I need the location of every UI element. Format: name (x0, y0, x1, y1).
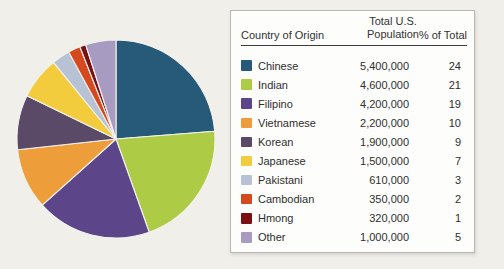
population-value: 4,200,000 (343, 98, 409, 110)
color-swatch-filipino (241, 98, 252, 109)
color-swatch-japanese (241, 156, 252, 167)
population-value: 350,000 (343, 193, 409, 205)
legend-row-cambodian: Cambodian350,0002 (241, 190, 467, 209)
country-label: Cambodian (257, 193, 343, 205)
population-value: 1,900,000 (343, 136, 409, 148)
percent-value: 10 (409, 117, 467, 129)
legend-table-header: Country of Origin Total U.S. Population … (241, 11, 467, 46)
country-label: Japanese (257, 155, 343, 167)
country-label: Other (257, 231, 343, 243)
legend-row-korean: Korean1,900,0009 (241, 132, 467, 151)
country-label: Korean (257, 136, 343, 148)
population-value: 2,200,000 (343, 117, 409, 129)
column-header-country: Country of Origin (241, 29, 324, 41)
color-swatch-vietnamese (241, 118, 252, 129)
population-value: 1,500,000 (343, 155, 409, 167)
color-swatch-pakistani (241, 175, 252, 186)
country-label: Chinese (257, 60, 343, 72)
color-swatch-cambodian (241, 194, 252, 205)
color-swatch-indian (241, 79, 252, 90)
color-swatch-hmong (241, 213, 252, 224)
legend-row-japanese: Japanese1,500,0007 (241, 151, 467, 170)
percent-value: 3 (409, 174, 467, 186)
percent-value: 5 (409, 231, 467, 243)
percent-value: 19 (409, 98, 467, 110)
color-swatch-other (241, 232, 252, 243)
country-label: Pakistani (257, 174, 343, 186)
legend-table-card: Country of Origin Total U.S. Population … (230, 10, 475, 253)
legend-row-filipino: Filipino4,200,00019 (241, 94, 467, 113)
legend-row-other: Other1,000,0005 (241, 228, 467, 247)
pie-chart-area (0, 0, 232, 269)
population-value: 320,000 (343, 212, 409, 224)
legend-row-indian: Indian4,600,00021 (241, 75, 467, 94)
country-label: Vietnamese (257, 117, 343, 129)
percent-value: 1 (409, 212, 467, 224)
column-header-percent: % of Total (419, 29, 467, 41)
country-label: Hmong (257, 212, 343, 224)
population-value: 610,000 (343, 174, 409, 186)
pie-slice-chinese (116, 40, 215, 139)
figure-asian-american-population: Country of Origin Total U.S. Population … (0, 0, 504, 269)
population-value: 5,400,000 (343, 60, 409, 72)
population-value: 4,600,000 (343, 79, 409, 91)
legend-table-body: Chinese5,400,00024Indian4,600,00021Filip… (241, 46, 467, 247)
legend-row-vietnamese: Vietnamese2,200,00010 (241, 113, 467, 132)
percent-value: 7 (409, 155, 467, 167)
legend-row-hmong: Hmong320,0001 (241, 209, 467, 228)
percent-value: 9 (409, 136, 467, 148)
percent-value: 24 (409, 60, 467, 72)
country-label: Indian (257, 79, 343, 91)
percent-value: 21 (409, 79, 467, 91)
population-value: 1,000,000 (343, 231, 409, 243)
color-swatch-chinese (241, 60, 252, 71)
country-label: Filipino (257, 98, 343, 110)
legend-row-chinese: Chinese5,400,00024 (241, 56, 467, 75)
legend-row-pakistani: Pakistani610,0003 (241, 171, 467, 190)
percent-value: 2 (409, 193, 467, 205)
pie-chart (0, 0, 232, 269)
color-swatch-korean (241, 137, 252, 148)
